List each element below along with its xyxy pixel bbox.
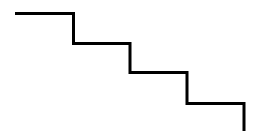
staircase-line	[15, 14, 244, 132]
staircase-diagram	[0, 0, 258, 139]
